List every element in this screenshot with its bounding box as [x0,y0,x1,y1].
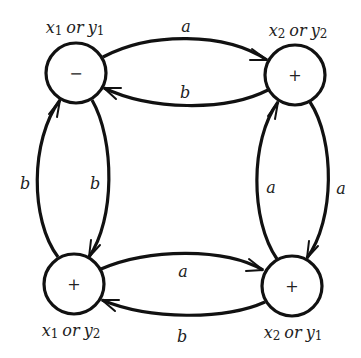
node-top-left: − [46,43,106,103]
node-bottom-right: + [262,256,322,316]
plus-sign: + [285,277,298,296]
state-diagram: a b b b a a a b − [0,0,361,358]
node-top-right: + [265,45,325,105]
plus-sign: + [67,275,80,294]
edge-label: a [336,179,346,198]
node-label-bottom-right: x2ory1 [264,323,323,344]
edge-label: b [177,327,187,346]
edge-label: a [181,17,191,36]
edge-label: b [20,174,30,193]
edge-top-right-to-bottom-right [307,102,328,258]
edge-bottom-right-to-bottom-left [102,300,265,315]
plus-sign: + [288,66,301,85]
node-label-top-left: x1ory1 [46,18,105,39]
node-bottom-left: + [44,254,104,314]
edge-label: b [180,83,190,102]
edge-bottom-left-to-top-left [37,100,60,257]
edge-top-left-to-top-right [103,39,267,60]
node-label-bottom-left: x1ory2 [42,321,101,342]
minus-sign: − [69,64,82,83]
edge-label: a [266,178,276,197]
edge-label: b [90,174,100,193]
edge-label: a [178,262,188,281]
node-label-top-right: x2ory2 [269,21,328,42]
